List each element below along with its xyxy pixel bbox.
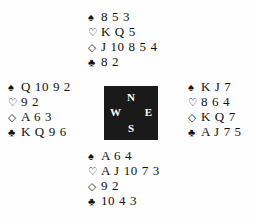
heart-icon: ♡ [188,95,201,110]
spade-icon: ♠ [188,80,201,95]
north-hearts-cards: K Q 5 [101,24,136,39]
diamond-icon: ◇ [188,110,201,125]
compass-east-label: E [145,107,152,118]
east-diamonds-row: ◇ K Q 7 [188,109,242,124]
east-hearts-row: ♡ 8 6 4 [188,94,242,109]
west-clubs-row: ♣ K Q 9 6 [8,124,71,139]
diamond-icon: ◇ [88,40,101,55]
north-clubs-cards: 8 2 [101,54,119,69]
north-spades-row: ♠ 8 5 3 [88,9,158,24]
compass-west-label: W [110,107,121,118]
hand-east: ♠ K J 7 ♡ 8 6 4 ◇ K Q 7 ♣ A J 7 5 [188,79,242,139]
east-clubs-row: ♣ A J 7 5 [188,124,242,139]
hand-west: ♠ Q 10 9 2 ♡ 9 2 ◇ A 6 3 ♣ K Q 9 6 [8,79,71,139]
west-hearts-row: ♡ 9 2 [8,94,71,109]
south-hearts-row: ♡ A J 10 7 3 [88,163,160,178]
club-icon: ♣ [88,55,101,70]
heart-icon: ♡ [8,95,21,110]
west-diamonds-row: ◇ A 6 3 [8,109,71,124]
south-diamonds-row: ◇ 9 2 [88,178,160,193]
heart-icon: ♡ [88,164,101,179]
west-spades-row: ♠ Q 10 9 2 [8,79,71,94]
south-diamonds-cards: 9 2 [101,178,119,193]
heart-icon: ♡ [88,25,101,40]
spade-icon: ♠ [88,10,101,25]
club-icon: ♣ [188,125,201,140]
north-hearts-row: ♡ K Q 5 [88,24,158,39]
north-spades-cards: 8 5 3 [101,9,130,24]
compass-north-label: N [104,92,158,103]
west-clubs-cards: K Q 9 6 [21,124,67,139]
south-clubs-cards: 10 4 3 [101,193,137,208]
compass-south-label: S [104,123,158,134]
east-hearts-cards: 8 6 4 [201,94,230,109]
diamond-icon: ◇ [8,110,21,125]
east-clubs-cards: A J 7 5 [201,124,242,139]
west-spades-cards: Q 10 9 2 [21,79,71,94]
south-clubs-row: ♣ 10 4 3 [88,193,160,208]
diamond-icon: ◇ [88,179,101,194]
club-icon: ♣ [88,194,101,209]
west-diamonds-cards: A 6 3 [21,109,52,124]
compass-box: N W E S [104,86,158,140]
east-diamonds-cards: K Q 7 [201,109,236,124]
hand-north: ♠ 8 5 3 ♡ K Q 5 ◇ J 10 8 5 4 ♣ 8 2 [88,9,158,69]
club-icon: ♣ [8,125,21,140]
bridge-hand-diagram: ♠ 8 5 3 ♡ K Q 5 ◇ J 10 8 5 4 ♣ 8 2 ♠ Q 1… [0,0,256,224]
south-spades-cards: A 6 4 [101,148,132,163]
north-diamonds-row: ◇ J 10 8 5 4 [88,39,158,54]
east-spades-cards: K J 7 [201,79,231,94]
south-spades-row: ♠ A 6 4 [88,148,160,163]
spade-icon: ♠ [88,149,101,164]
east-spades-row: ♠ K J 7 [188,79,242,94]
south-hearts-cards: A J 10 7 3 [101,163,160,178]
west-hearts-cards: 9 2 [21,94,39,109]
north-diamonds-cards: J 10 8 5 4 [101,39,158,54]
north-clubs-row: ♣ 8 2 [88,54,158,69]
hand-south: ♠ A 6 4 ♡ A J 10 7 3 ◇ 9 2 ♣ 10 4 3 [88,148,160,208]
spade-icon: ♠ [8,80,21,95]
